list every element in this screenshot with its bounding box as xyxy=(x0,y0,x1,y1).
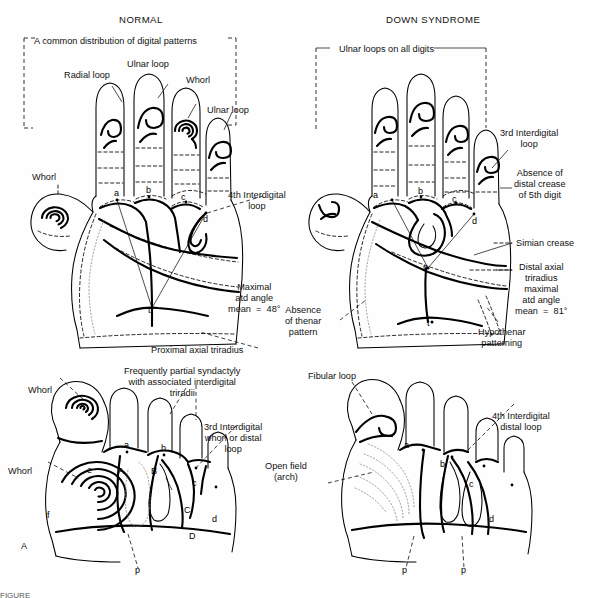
triradius-t-prime-right-hand: t' xyxy=(423,263,427,273)
dermatoglyphics-figure: .o{fill:none;stroke:#000;stroke-width:1.… xyxy=(0,0,598,598)
triradius-b-right-foot: b xyxy=(440,459,445,469)
label-ulnar-loop-fifth: Ulnar loop xyxy=(207,105,249,116)
label-p-left-foot: p xyxy=(135,565,140,575)
label-4th-interdigital-distal-loop: 4th Interdigital distal loop xyxy=(492,411,550,433)
label-distal-axial-triradius: Distal axial triradius maximal atd angle… xyxy=(515,262,567,317)
triradius-c-right-foot: c xyxy=(469,479,474,489)
label-3rd-interdigital-loop: 3rd Interdigital loop xyxy=(500,128,558,150)
label-ulnar-loop-top: Ulnar loop xyxy=(127,59,169,70)
triradius-e-left-foot: e xyxy=(87,465,92,475)
triradius-t-right-hand: t xyxy=(427,318,430,328)
triradius-C-left-foot: C xyxy=(184,505,191,515)
panel-letter-A: A xyxy=(21,541,27,551)
left-foot-drawing xyxy=(46,382,236,568)
triradius-D-left-foot: D xyxy=(189,531,196,541)
label-proximal-axial-triradius: Proximal axial triradius xyxy=(151,345,243,356)
label-4th-interdigital-loop: 4th Interdigital loop xyxy=(228,190,286,212)
label-absence-distal-crease: Absence of distal crease of 5th digit xyxy=(514,168,566,201)
triradius-c-left-foot: c xyxy=(192,478,197,488)
triradius-b-left-hand: b xyxy=(146,185,151,195)
figure-caption-text: FIGURE xyxy=(0,592,598,598)
triradius-d-left-foot: d xyxy=(212,514,217,524)
label-p-right-foot-right: p xyxy=(461,565,466,575)
label-whorl-hallux-left-foot: Whorl xyxy=(28,385,52,396)
right-foot-drawing xyxy=(342,380,532,568)
triradius-c-right-hand: c xyxy=(452,194,457,204)
label-radial-loop: Radial loop xyxy=(64,70,110,81)
triradius-c-left-hand: c xyxy=(181,192,186,202)
left-hand-bracket-label: A common distribution of digital pattern… xyxy=(34,36,197,47)
triradius-a-left-hand: a xyxy=(114,188,119,198)
label-fibular-loop: Fibular loop xyxy=(308,371,356,382)
right-hand-drawing xyxy=(309,48,511,348)
label-simian-crease: Simian crease xyxy=(516,238,574,249)
triradius-B-left-foot: B xyxy=(151,466,157,476)
label-whorl-hallucal-left-foot: Whorl xyxy=(8,466,32,477)
figure-caption-cropped: FIGURE xyxy=(0,592,598,598)
label-whorl-thumb: Whorl xyxy=(32,172,56,183)
triradius-d-right-hand: d xyxy=(472,216,477,226)
label-syndactyly: Frequently partial syndactyly with assoc… xyxy=(124,366,240,399)
label-absence-thenar-pattern: Absence of thenar pattern xyxy=(285,305,321,338)
triradius-a-right-foot: a xyxy=(404,440,409,450)
triradius-a-right-hand: a xyxy=(373,190,378,200)
triradius-b-right-hand: b xyxy=(418,186,423,196)
label-open-field-arch: Open field (arch) xyxy=(265,461,307,483)
triradius-f-left-foot: f xyxy=(47,510,50,520)
right-hand-bracket-label: Ulnar loops on all digits xyxy=(339,44,434,55)
triradius-b-left-foot: b xyxy=(161,443,166,453)
triradius-t-left-hand: t xyxy=(148,305,151,315)
label-3rd-interdigital-whorl: 3rd Interdigital whorl or distal loop xyxy=(204,422,262,455)
triradius-A-left-foot: A xyxy=(118,466,124,476)
label-p-right-foot-left: p xyxy=(402,565,407,575)
label-whorl-digit: Whorl xyxy=(186,75,210,86)
triradius-d-left-hand: d xyxy=(203,214,208,224)
triradius-a-left-foot: a xyxy=(124,440,129,450)
triradius-d-right-foot: d xyxy=(489,514,494,524)
label-hypothenar-patterning: Hypothenar patterning xyxy=(478,327,526,349)
label-maximal-atd-angle: Maximal atd angle mean = 48° xyxy=(228,282,280,315)
